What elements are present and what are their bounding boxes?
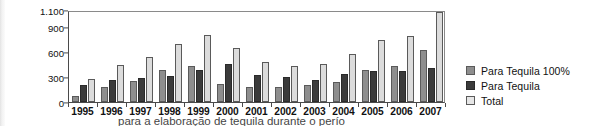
x-axis-tick-mark: [387, 103, 388, 107]
bar: [175, 44, 182, 102]
bar: [130, 81, 137, 102]
bar: [159, 70, 166, 102]
bar: [246, 87, 253, 102]
x-axis-year-label: 2002: [274, 106, 296, 117]
bar: [72, 96, 79, 102]
bar: [138, 78, 145, 102]
x-axis-year-label: 2000: [216, 106, 238, 117]
bar-group: [301, 12, 330, 102]
bar: [428, 68, 435, 102]
bar: [217, 84, 224, 102]
bar: [362, 70, 369, 102]
bar: [312, 80, 319, 102]
bar: [407, 36, 414, 102]
bar-chart-figure: 03006009001.100 199519961997199819992000…: [0, 0, 607, 126]
figure-caption-text: para a elaboração de tequila durante o p…: [118, 117, 607, 126]
x-axis-year-label: 2004: [332, 106, 354, 117]
x-axis-tick-mark: [358, 103, 359, 107]
y-axis-tick-label: 600: [20, 47, 64, 58]
x-axis-year-label: 1998: [158, 106, 180, 117]
bar: [436, 12, 443, 102]
bar: [146, 57, 153, 102]
y-axis-tick-label: 1.100: [20, 6, 64, 17]
bar: [399, 71, 406, 102]
bar: [420, 50, 427, 102]
x-axis-year-label: 1999: [187, 106, 209, 117]
legend-item: Para Tequila: [466, 78, 606, 93]
bar: [333, 82, 340, 102]
bar: [204, 35, 211, 102]
bar: [254, 75, 261, 102]
legend-item-label: Total: [481, 95, 503, 107]
bar-group: [388, 12, 417, 102]
bar-group: [156, 12, 185, 102]
legend-swatch-icon: [466, 81, 475, 90]
bar: [370, 71, 377, 102]
x-axis-tick-mark: [416, 103, 417, 107]
x-axis-year-label: 1995: [71, 106, 93, 117]
x-axis-tick-mark: [155, 103, 156, 107]
bar: [109, 80, 116, 102]
bar-group: [69, 12, 98, 102]
x-axis-year-label: 1996: [100, 106, 122, 117]
x-axis-tick-mark: [271, 103, 272, 107]
x-axis-tick-mark: [242, 103, 243, 107]
x-axis-tick-mark: [126, 103, 127, 107]
x-axis-tick-mark: [68, 103, 69, 107]
bar: [283, 77, 290, 102]
bar: [117, 65, 124, 102]
bar: [349, 54, 356, 103]
bar: [188, 66, 195, 102]
legend-swatch-icon: [466, 66, 475, 75]
x-axis-tick-mark: [329, 103, 330, 107]
bar-group: [272, 12, 301, 102]
x-axis-year-label: 2001: [245, 106, 267, 117]
bar-group: [243, 12, 272, 102]
y-axis-tick-label: 0: [20, 98, 64, 109]
x-axis-year-label: 1997: [129, 106, 151, 117]
y-axis-tick-label: 300: [20, 72, 64, 83]
bar: [167, 76, 174, 102]
plot-area: [68, 11, 445, 103]
bar-group: [98, 12, 127, 102]
x-axis-year-label: 2005: [361, 106, 383, 117]
x-axis-year-label: 2007: [419, 106, 441, 117]
legend-item-label: Para Tequila: [481, 80, 540, 92]
bar: [391, 66, 398, 102]
x-axis-year-label: 2003: [303, 106, 325, 117]
bar-group: [127, 12, 156, 102]
bar: [88, 79, 95, 102]
x-axis-tick-mark: [184, 103, 185, 107]
x-axis-tick-mark: [213, 103, 214, 107]
bar: [378, 40, 385, 102]
bar: [304, 85, 311, 102]
x-axis-year-label: 2006: [390, 106, 412, 117]
figure-caption: para a elaboração de tequila durante o p…: [118, 117, 607, 126]
x-axis-tick-mark: [97, 103, 98, 107]
bar: [275, 87, 282, 102]
bar-group: [417, 12, 446, 102]
legend-item: Para Tequila 100%: [466, 63, 606, 78]
bar: [233, 48, 240, 102]
bar: [225, 64, 232, 102]
bar: [101, 87, 108, 102]
bar: [262, 62, 269, 102]
bars-layer: [69, 12, 444, 102]
bar: [80, 85, 87, 102]
bar-group: [359, 12, 388, 102]
x-axis-tick-mark: [300, 103, 301, 107]
bar-group: [330, 12, 359, 102]
bar-group: [185, 12, 214, 102]
bar: [320, 64, 327, 102]
legend-item-label: Para Tequila 100%: [481, 65, 570, 77]
y-axis-tick-label: 900: [20, 22, 64, 33]
chart-legend: Para Tequila 100%Para TequilaTotal: [466, 63, 606, 108]
x-axis-tick-mark: [445, 103, 446, 107]
bar: [291, 66, 298, 102]
legend-item: Total: [466, 93, 606, 108]
bar: [341, 74, 348, 102]
bar: [196, 70, 203, 102]
legend-swatch-icon: [466, 96, 475, 105]
bar-group: [214, 12, 243, 102]
